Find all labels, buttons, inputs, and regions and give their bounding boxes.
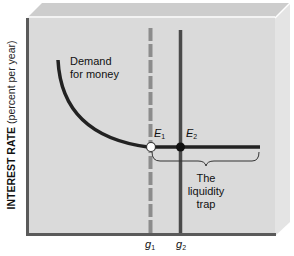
demand-curve-label: Demand for money bbox=[70, 55, 119, 81]
equilibrium-e1-marker bbox=[147, 143, 156, 152]
y-axis-label: INTEREST RATE (percent per year) bbox=[5, 35, 19, 215]
trap-label-line1: The bbox=[176, 172, 236, 185]
x-tick-g2: g2 bbox=[176, 238, 186, 251]
liquidity-trap-diagram: INTEREST RATE (percent per year) Demand … bbox=[0, 0, 294, 256]
liquidity-trap-label: The liquidity trap bbox=[176, 172, 236, 211]
y-axis-label-main: INTEREST RATE bbox=[5, 127, 17, 210]
e1-subscript: 1 bbox=[161, 133, 165, 140]
equilibrium-e2-marker bbox=[176, 143, 185, 152]
diagram-canvas bbox=[0, 0, 294, 256]
trap-label-line2: liquidity bbox=[176, 185, 236, 198]
y-axis-label-unit: (percent per year) bbox=[5, 40, 17, 123]
trap-label-line3: trap bbox=[176, 198, 236, 211]
e2-label: E2 bbox=[186, 127, 197, 140]
panel-top-bevel bbox=[27, 3, 290, 18]
panel-side-bevel bbox=[275, 3, 290, 236]
g1-subscript: 1 bbox=[151, 244, 155, 251]
demand-label-line2: for money bbox=[70, 68, 119, 81]
e1-label: E1 bbox=[154, 127, 165, 140]
x-tick-g1: g1 bbox=[145, 238, 155, 251]
e2-subscript: 2 bbox=[193, 133, 197, 140]
g2-subscript: 2 bbox=[182, 244, 186, 251]
demand-label-line1: Demand bbox=[70, 55, 119, 68]
